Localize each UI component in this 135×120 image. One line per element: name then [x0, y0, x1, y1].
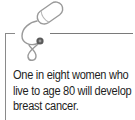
- fact-callout: One in eight women who live to age 80 wi…: [0, 0, 135, 120]
- fact-text: One in eight women who live to age 80 wi…: [13, 68, 134, 115]
- stethoscope-icon: [0, 0, 70, 62]
